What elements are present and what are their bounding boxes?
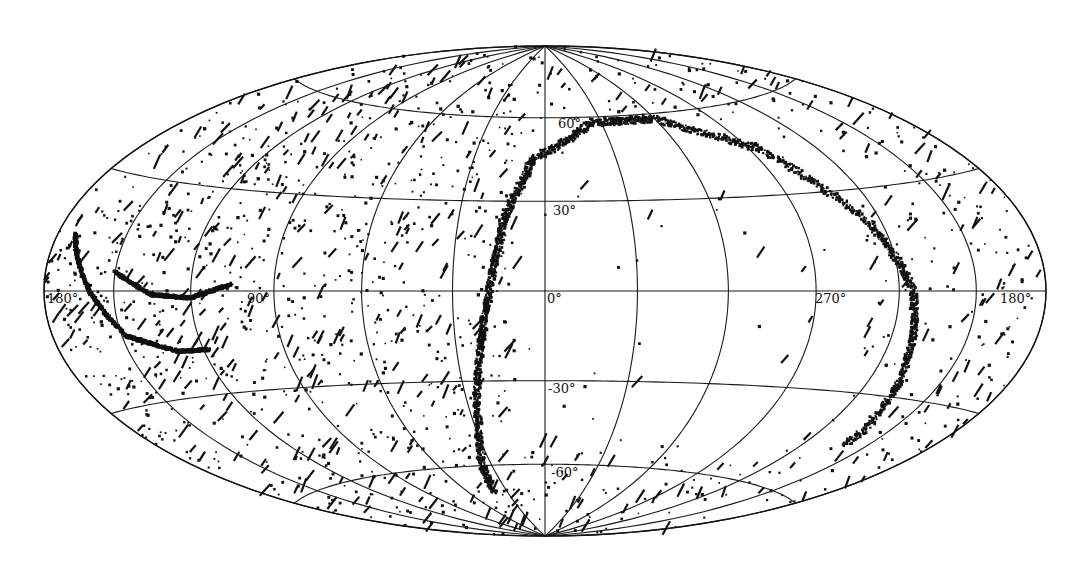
lon-label-180-right: 180° [1000, 291, 1031, 306]
sky-map: 180° 90° 0° 270° 180° 60° 30° -30° -60° [0, 0, 1087, 562]
lon-label-270: 270° [815, 291, 846, 306]
lat-label-minus30: -30° [548, 381, 575, 396]
graticule [44, 46, 1046, 536]
lon-label-90: 90° [247, 291, 270, 306]
data-points [43, 45, 1042, 535]
lon-label-180-left: 180° [47, 291, 78, 306]
lat-label-minus60: -60° [551, 465, 578, 480]
lat-label-60: 60° [558, 116, 581, 131]
lat-label-30: 30° [553, 203, 576, 218]
lon-label-0: 0° [547, 291, 562, 306]
